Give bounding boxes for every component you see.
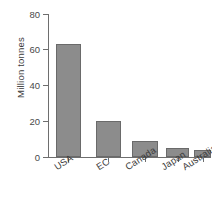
bar-usa	[56, 44, 81, 157]
y-tick-label-60: 60	[14, 44, 40, 55]
bar-ec	[96, 121, 121, 157]
y-tick-label-80: 80	[14, 9, 40, 20]
y-tick-0	[43, 157, 48, 158]
plot-area	[48, 14, 211, 157]
y-tick-label-20: 20	[14, 116, 40, 127]
y-tick-label-0: 0	[14, 152, 40, 163]
y-tick-label-40: 40	[14, 80, 40, 91]
bar-chart: Million tonnes 80 60 40 20 0 USA EC Cana…	[0, 0, 212, 200]
y-axis-title: Million tonnes	[15, 8, 26, 128]
